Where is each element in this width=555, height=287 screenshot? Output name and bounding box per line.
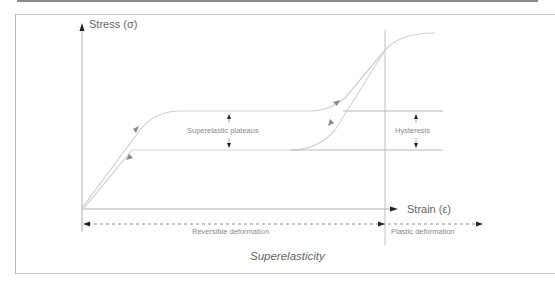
x-axis-arrow-icon [390, 207, 398, 212]
y-axis-label: Stress (σ) [89, 18, 137, 30]
unloading-arrow-upper-icon [328, 119, 334, 126]
range-right-arrow-icon [476, 222, 483, 227]
plastic-deformation-label: Plastic deformation [391, 227, 455, 236]
x-axis-label: Strain (ε) [407, 203, 451, 215]
loading-curve [82, 33, 435, 208]
hysteresis-label: Hysteresis [395, 126, 430, 135]
range-mid-arrow-icon [378, 222, 385, 227]
reversible-deformation-label: Reversible deformation [192, 227, 269, 236]
range-left-arrow-icon [83, 222, 90, 227]
plateaus-label: Superelastic plateaus [187, 126, 259, 135]
plateau-up-arrow-icon [227, 114, 231, 119]
plateau-down-arrow-icon [227, 143, 231, 148]
hysteresis-up-arrow-icon [414, 114, 418, 119]
unloading-arrow-icon [126, 154, 133, 160]
y-axis-arrow-icon [80, 23, 85, 31]
hysteresis-down-arrow-icon [414, 143, 418, 148]
figure-caption: Superelasticity [250, 250, 325, 262]
